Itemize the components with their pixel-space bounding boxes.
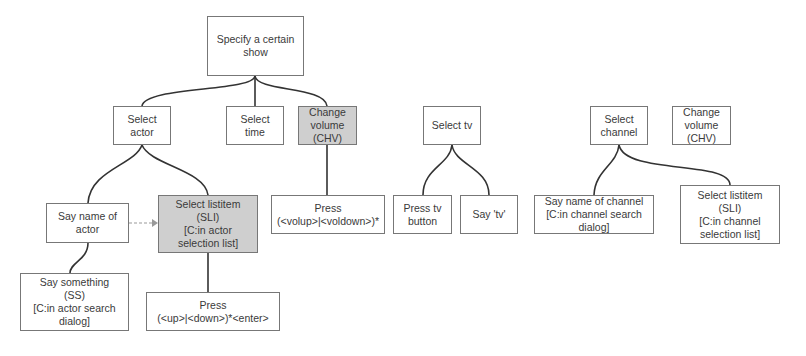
node-change-volume: Change volume (CHV) bbox=[298, 106, 357, 145]
node-select-listitem-channel: Select listitem (SLI) [C:in channel sele… bbox=[680, 185, 780, 244]
node-say-name-actor: Say name of actor bbox=[46, 203, 129, 243]
node-select-listitem-actor: Select listitem (SLI) [C:in actor select… bbox=[158, 195, 258, 253]
node-change-volume-2: Change volume (CHV) bbox=[672, 106, 731, 145]
node-press-up-down: Press (<up>|<down>)*<enter> bbox=[146, 292, 280, 331]
node-select-tv: Select tv bbox=[423, 106, 481, 145]
node-press-volume: Press (<volup>|<voldown>)* bbox=[271, 195, 385, 234]
node-say-name-channel: Say name of channel [C:in channel search… bbox=[534, 195, 654, 234]
node-press-tv-button: Press tv button bbox=[393, 195, 452, 234]
node-say-something: Say something (SS) [C:in actor search di… bbox=[20, 273, 129, 331]
node-specify-show: Specify a certain show bbox=[207, 16, 304, 76]
node-select-channel: Select channel bbox=[590, 106, 648, 145]
node-select-time: Select time bbox=[226, 106, 284, 145]
node-select-actor: Select actor bbox=[113, 106, 171, 145]
node-say-tv: Say 'tv' bbox=[460, 195, 518, 234]
